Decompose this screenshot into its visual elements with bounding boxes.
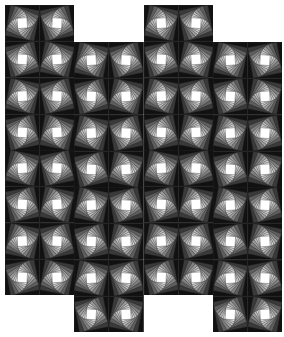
- spiral-tile: [5, 5, 74, 78]
- spiral-tile: [144, 150, 213, 223]
- spiral-tile: [213, 260, 282, 333]
- spiral-tile: [144, 78, 213, 151]
- spiral-tile: [74, 260, 143, 333]
- tessellation-canvas: [0, 0, 284, 337]
- spiral-tile: [74, 187, 143, 260]
- spiral-tile: [213, 115, 282, 188]
- spiral-tile: [74, 115, 143, 188]
- spiral-tile: [144, 223, 213, 296]
- spiral-tile: [74, 42, 143, 115]
- spiral-tile: [5, 223, 74, 296]
- spiral-tile: [144, 5, 213, 78]
- spiral-tile: [5, 78, 74, 151]
- spiral-tile: [213, 187, 282, 260]
- spiral-tile: [213, 42, 282, 115]
- spiral-tile: [5, 150, 74, 223]
